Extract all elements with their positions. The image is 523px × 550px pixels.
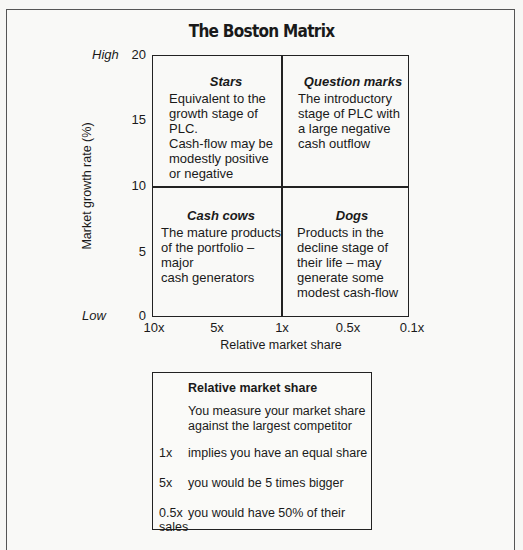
x-tick-5x: 5x — [210, 320, 224, 335]
x-tick-1x: 1x — [275, 320, 289, 335]
horizontal-divider — [153, 186, 408, 188]
quadrant-text: a large negative — [298, 121, 408, 136]
legend-key: 1x — [159, 446, 188, 460]
y-level-low: Low — [82, 308, 106, 323]
quadrant-text: their life – may — [297, 255, 407, 270]
quadrant-text: The mature products — [161, 225, 281, 240]
y-tick-5: 5 — [116, 244, 146, 259]
boston-matrix: Stars Equivalent to the growth stage of … — [152, 55, 409, 317]
legend-key: 5x — [159, 476, 188, 490]
y-tick-20: 20 — [116, 47, 146, 62]
y-axis-label: Market growth rate (%) — [80, 122, 94, 249]
y-tick-0: 0 — [116, 308, 146, 323]
quadrant-text: cash generators — [161, 270, 281, 285]
x-axis-label: Relative market share — [220, 338, 342, 352]
x-tick-10x: 10x — [144, 320, 165, 335]
legend-box: Relative market share You measure your m… — [152, 372, 372, 530]
x-tick-0-5x: 0.5x — [336, 320, 361, 335]
quadrant-stars: Stars Equivalent to the growth stage of … — [169, 74, 283, 181]
quadrant-text: growth stage of PLC. — [169, 106, 283, 136]
quadrant-text: Equivalent to the — [169, 91, 283, 106]
quadrant-dogs: Dogs Products in the decline stage of th… — [297, 208, 407, 300]
quadrant-cash-cows: Cash cows The mature products of the por… — [161, 208, 281, 285]
legend-key: 0.5x — [159, 506, 188, 520]
quadrant-text: or negative — [169, 166, 283, 181]
quadrant-text: modestly positive — [169, 151, 283, 166]
quadrant-title: Cash cows — [161, 208, 281, 223]
y-tick-15: 15 — [116, 112, 146, 127]
quadrant-text: Cash-flow may be — [169, 136, 283, 151]
quadrant-text: decline stage of — [297, 240, 407, 255]
x-tick-0-1x: 0.1x — [400, 320, 425, 335]
quadrant-text: of the portfolio – major — [161, 240, 281, 270]
legend-text: you would be 5 times bigger — [188, 476, 344, 490]
legend-text: implies you have an equal share — [188, 446, 367, 460]
quadrant-question-marks: Question marks The introductory stage of… — [298, 74, 408, 151]
y-level-high: High — [92, 47, 119, 62]
legend-description: You measure your market share against th… — [188, 404, 368, 434]
quadrant-text: cash outflow — [298, 136, 408, 151]
legend-row: 0.5xyou would have 50% of their sales — [159, 506, 371, 534]
quadrant-text: The introductory — [298, 91, 408, 106]
diagram-title: The Boston Matrix — [26, 21, 497, 41]
quadrant-title: Dogs — [297, 208, 407, 223]
legend-row: 5xyou would be 5 times bigger — [159, 476, 344, 490]
legend-desc-line: You measure your market share — [188, 404, 368, 419]
legend-title: Relative market share — [188, 381, 317, 395]
quadrant-text: Products in the — [297, 225, 407, 240]
quadrant-title: Stars — [169, 74, 283, 89]
quadrant-text: modest cash-flow — [297, 285, 407, 300]
legend-row: 1ximplies you have an equal share — [159, 446, 367, 460]
y-tick-10: 10 — [116, 178, 146, 193]
legend-desc-line: against the largest competitor — [188, 419, 368, 434]
quadrant-text: stage of PLC with — [298, 106, 408, 121]
quadrant-title: Question marks — [298, 74, 408, 89]
quadrant-text: generate some — [297, 270, 407, 285]
